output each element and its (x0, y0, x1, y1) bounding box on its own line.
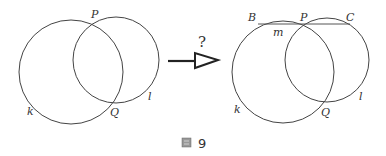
circle-l-left (73, 17, 159, 103)
label-Q-left: Q (110, 106, 119, 119)
label-Q-right: Q (321, 106, 330, 119)
label-B: B (247, 11, 256, 24)
arrow-head-icon (195, 53, 218, 68)
label-l-right: l (359, 90, 363, 103)
transform-arrow: ? (168, 33, 218, 68)
circle-l-right (285, 18, 369, 102)
figure-number: 9 (198, 136, 206, 151)
label-P-left: P (90, 8, 99, 21)
label-k-right: k (234, 103, 241, 116)
label-C: C (346, 11, 355, 24)
figure-caption: 9 (182, 136, 206, 151)
label-m: m (273, 26, 283, 39)
label-k-left: k (27, 105, 34, 118)
circle-k-left (19, 20, 123, 124)
question-mark: ? (198, 33, 206, 51)
label-l-left: l (148, 90, 152, 103)
figure-icon (182, 138, 191, 147)
left-figure: P Q k l (19, 8, 159, 124)
right-figure: B P C m Q k l (232, 11, 369, 123)
label-P-right: P (299, 11, 308, 24)
diagram-canvas: P Q k l ? B P C m Q k l 9 (0, 0, 386, 156)
